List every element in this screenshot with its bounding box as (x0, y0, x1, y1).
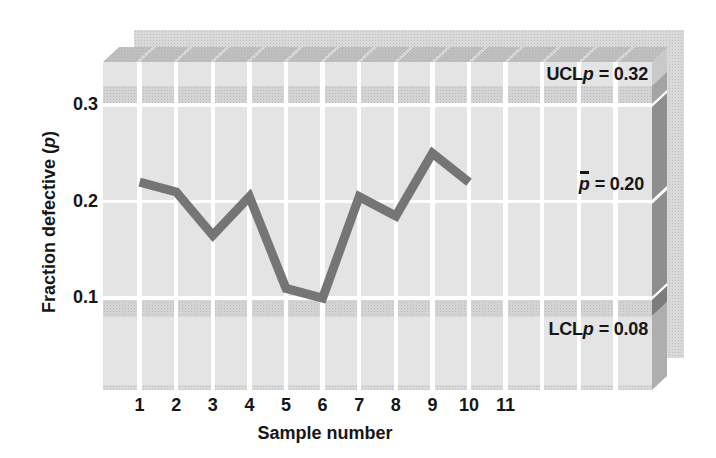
vertical-gridline (357, 62, 362, 390)
x-axis-title: Sample number (257, 423, 392, 444)
ucl-annotation: UCLp= 0.32 (546, 64, 648, 85)
ucl-band (103, 86, 652, 105)
vertical-gridline (503, 62, 508, 390)
lcl-annotation-value: = 0.08 (599, 319, 648, 339)
vertical-gridline (211, 62, 216, 390)
ucl-annotation-p: p (583, 64, 594, 84)
vertical-gridline (137, 62, 142, 390)
y-axis-title-close: ) (39, 131, 59, 137)
x-tick-label: 6 (307, 395, 339, 416)
x-tick-label: 8 (380, 395, 412, 416)
chart-3d-right-edge (652, 48, 667, 390)
horizontal-gridline (103, 200, 652, 204)
center-annotation-pbar: p (579, 174, 590, 195)
x-tick-label: 10 (453, 395, 485, 416)
horizontal-gridline (103, 296, 652, 300)
ucl-annotation-value: = 0.32 (599, 64, 648, 84)
vertical-gridline (247, 62, 252, 390)
side-face-below-lcl (652, 302, 667, 390)
x-tick-label: 4 (233, 395, 265, 416)
vertical-gridline (540, 62, 545, 390)
vertical-gridline (430, 62, 435, 390)
lcl-band (103, 298, 652, 317)
lcl-annotation-prefix: LCL (548, 319, 582, 339)
y-tick-label: 0.1 (58, 287, 98, 308)
lcl-annotation: LCLp= 0.08 (548, 319, 648, 340)
y-axis-title-text: Fraction defective ( (39, 148, 59, 313)
plot-area (103, 62, 652, 390)
chart-3d-top-edge (103, 47, 668, 62)
ucl-annotation-prefix: UCL (546, 64, 582, 84)
x-tick-label: 11 (490, 395, 522, 416)
vertical-gridline (174, 62, 179, 390)
x-tick-label: 5 (270, 395, 302, 416)
x-tick-label: 9 (416, 395, 448, 416)
vertical-gridline (394, 62, 399, 390)
x-tick-label: 1 (124, 395, 156, 416)
p-chart-figure: UCLp= 0.32 p= 0.20 LCLp= 0.08 Fraction d… (0, 0, 716, 458)
y-tick-label: 0.2 (58, 191, 98, 212)
vertical-gridline (284, 62, 289, 390)
lcl-annotation-p: p (583, 319, 594, 339)
center-line-annotation: p= 0.20 (579, 174, 644, 195)
vertical-gridline (577, 62, 582, 390)
y-tick-label: 0.3 (58, 94, 98, 115)
x-tick-label: 7 (343, 395, 375, 416)
x-tick-label: 3 (197, 395, 229, 416)
y-axis-title-p: p (39, 137, 59, 148)
center-annotation-value: = 0.20 (595, 174, 644, 194)
horizontal-gridline (103, 103, 652, 107)
vertical-gridline (613, 62, 618, 390)
side-face-upper (652, 93, 667, 200)
vertical-gridline (467, 62, 472, 390)
x-tick-label: 2 (160, 395, 192, 416)
plot-bottom-edge (103, 385, 652, 390)
side-face-lower (652, 190, 667, 297)
y-axis-title: Fraction defective (p) (39, 131, 60, 313)
vertical-gridline (320, 62, 325, 390)
